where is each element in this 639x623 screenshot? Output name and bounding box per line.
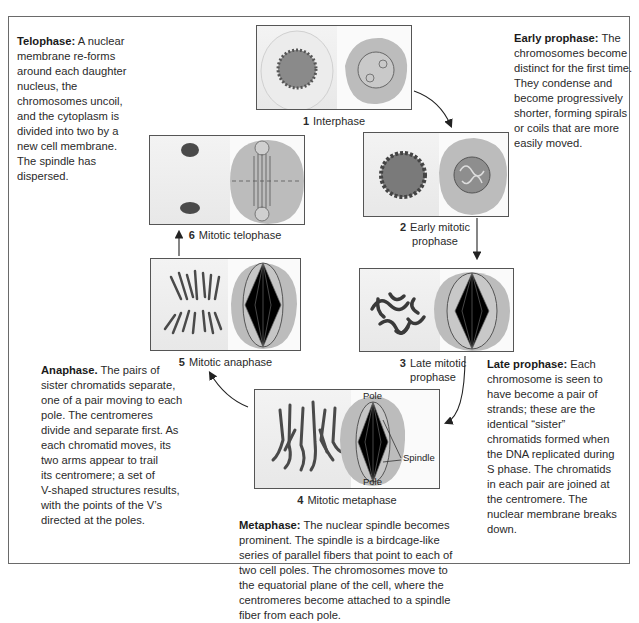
anaphase-illustration (151, 259, 301, 351)
early-prophase-description: Early prophase: The chromosomes become d… (514, 31, 639, 151)
stage-interphase-label: 1Interphase (256, 114, 412, 128)
late-prophase-illustration (360, 269, 514, 352)
stage-anaphase-label: 5Mitotic anaphase (150, 355, 301, 369)
stage-telophase-image (149, 135, 305, 225)
metaphase-title: Metaphase: (239, 519, 301, 531)
stage-metaphase-image: Pole Pole Spindle (254, 389, 440, 489)
early-prophase-illustration (364, 133, 509, 217)
stage-interphase-image (256, 25, 412, 110)
stage-early-prophase-label: 2Early mitotic prophase (380, 220, 490, 248)
stage-late-prophase-image (359, 268, 514, 352)
late-prophase-description: Late prophase: Each chromosome is seen t… (487, 357, 632, 537)
stage-early-prophase-image (363, 132, 509, 217)
late-prophase-title: Late prophase: (487, 358, 567, 370)
early-prophase-title: Early prophase: (514, 32, 599, 44)
telophase-title: Telophase: (17, 35, 75, 47)
pole-top-annotation: Pole (363, 390, 382, 401)
anaphase-description: Anaphase. The pairs of sister chromatids… (41, 363, 191, 528)
stage-anaphase-image (150, 258, 301, 351)
pole-bottom-annotation: Pole (363, 476, 382, 487)
stage-metaphase-label: 4Mitotic metaphase (254, 493, 440, 507)
anaphase-title: Anaphase. (41, 364, 98, 376)
spindle-annotation: Spindle (403, 452, 435, 463)
telophase-illustration (150, 136, 305, 225)
stage-late-prophase-label: 3Late mitotic prophase (378, 356, 488, 384)
telophase-description: Telophase: A nuclear membrane re-forms a… (17, 34, 157, 184)
metaphase-illustration (255, 390, 440, 489)
stage-telophase-label: 6Mitotic telophase (165, 228, 305, 242)
metaphase-description: Metaphase: The nuclear spindle becomes p… (239, 518, 454, 623)
interphase-illustration (257, 26, 412, 110)
